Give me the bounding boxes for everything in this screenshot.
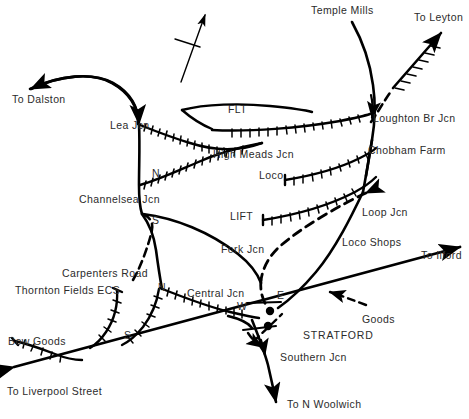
to-leyton-sleepers [395, 46, 440, 90]
label-central-jcn: Central Jcn [187, 288, 245, 299]
label-temple-mills: Temple Mills [311, 5, 374, 16]
label-channelsea-jcn: Channelsea Jcn [79, 194, 160, 205]
label-stratford-station: STRATFORD [303, 330, 374, 341]
west-approach-curve [228, 316, 252, 328]
label-bow-goods: Bow Goods [8, 336, 66, 347]
label-carpenters-road: Carpenters Road [62, 268, 148, 279]
label-fork-jcn: Fork Jcn [221, 244, 264, 255]
goods-dashed-branch [330, 292, 366, 305]
label-chobham-farm: Chobham Farm [368, 145, 446, 156]
label-stratford-west: W [237, 301, 247, 312]
high-meads-loughton-line [212, 114, 370, 131]
thornton-fields-sleepers [99, 300, 121, 341]
label-loop-jcn: Loop Jcn [362, 207, 408, 218]
north-arrow-icon [175, 15, 205, 82]
label-lift: LIFT [230, 211, 253, 222]
loco-shops-curve [278, 192, 363, 308]
label-goods: Goods [362, 314, 395, 325]
label-channelsea-north: N [152, 168, 160, 179]
label-flt: FLT [228, 104, 247, 115]
stratford-dashed-callout [248, 314, 282, 347]
label-to-ilford: To Ilford [421, 250, 462, 261]
label-channelsea-south: S [152, 215, 159, 226]
to-leyton-line [393, 33, 441, 88]
lea-high-meads-curve [140, 125, 262, 149]
railway-diagram: To Dalston Lea Jcn Channelsea Jcn N S FL… [0, 0, 469, 419]
label-central-north: N [158, 282, 166, 293]
label-to-liverpool-street: To Liverpool Street [7, 386, 102, 397]
label-high-meads-jcn: High Meads Jcn [213, 149, 294, 160]
label-to-n-woolwich: To N Woolwich [287, 399, 361, 410]
label-loco: Loco [259, 170, 283, 181]
label-loughton-br-jcn: Loughton Br Jcn [373, 113, 455, 124]
label-lea-jcn: Lea Jcn [110, 120, 150, 131]
label-to-dalston: To Dalston [12, 94, 66, 105]
label-central-south: S [124, 330, 131, 341]
label-loco-shops: Loco Shops [342, 237, 401, 248]
stratford-east-dot [266, 307, 274, 315]
temple-mills-line [352, 22, 375, 192]
label-stratford-east: E [277, 290, 284, 301]
label-to-leyton: To Leyton [414, 12, 463, 23]
label-southern-jcn: Southern Jcn [280, 352, 347, 363]
label-thornton-fields-ecs: Thornton Fields ECS [15, 285, 120, 296]
lift-loop-sleepers [272, 189, 356, 225]
